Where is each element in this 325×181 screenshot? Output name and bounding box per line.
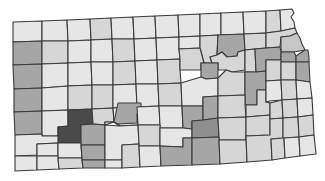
county-region [203,96,218,120]
county-region [90,18,112,40]
county-region [15,156,37,171]
county-region [179,36,200,49]
county-region [296,80,312,99]
county-region [135,60,158,84]
county-region [81,124,105,145]
county-region [42,20,68,41]
county-region [13,41,42,65]
county-region [245,49,256,72]
county-region [221,12,244,35]
county-region [219,136,247,164]
county-region [91,62,113,85]
county-region [192,137,220,165]
county-region [91,39,113,62]
county-region [134,38,157,61]
county-region [218,70,245,96]
county-region [67,19,91,41]
county-region [299,135,316,156]
county-region [105,160,122,168]
county-region [137,106,160,125]
county-region [297,98,313,117]
county-region [243,11,266,34]
county-region [138,125,160,146]
county-region [270,100,283,119]
county-region [13,64,42,89]
county-region [14,88,42,112]
county-region [266,80,282,102]
county-region [81,145,105,160]
county-region [158,83,182,106]
county-region [266,10,281,33]
county-region [281,52,296,62]
county-region [246,115,270,136]
county-region [156,37,180,60]
county-region [14,111,42,135]
county-region [68,62,92,86]
county-region [282,99,298,118]
county-region [37,143,58,156]
county-region [42,41,68,64]
county-region [112,39,135,62]
county-region [218,95,246,118]
county-region [244,33,266,50]
county-region [200,13,221,36]
county-region [68,85,92,110]
county-region [266,60,281,81]
county-region [218,117,246,140]
county-region [42,63,68,88]
county-region [284,137,300,158]
county-region [159,106,183,128]
county-region [298,115,314,137]
county-region [58,143,82,158]
county-region [82,160,105,168]
county-region [178,14,200,37]
county-region [201,63,218,79]
county-region [37,156,59,170]
county-region [157,59,181,84]
county-region [139,146,161,167]
county-region [296,62,310,82]
kansas-county-map [0,0,325,181]
county-region [68,40,91,63]
county-region [192,118,219,138]
county-region [42,86,68,111]
county-region [92,85,113,109]
county-region [111,17,134,39]
county-region [281,62,296,80]
county-region [281,80,297,100]
county-region [155,15,179,38]
county-region [133,16,156,39]
county-region [13,21,42,42]
choropleth-map [0,0,325,181]
county-region [280,9,295,31]
county-region [122,144,140,168]
county-region [113,61,136,85]
county-region [179,48,204,70]
county-region [58,158,83,169]
